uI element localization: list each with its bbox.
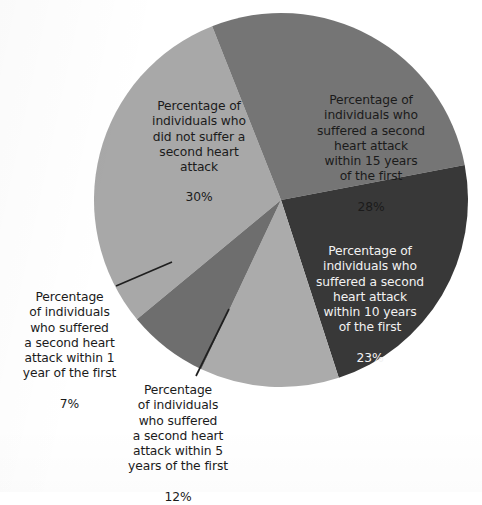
slice-label-within-15-years: Percentage of individuals who suffered a… [297,78,445,215]
slice-label-text-no-second-attack: Percentage of individuals who did not su… [152,99,246,174]
slice-label-text-within-15-years: Percentage of individuals who suffered a… [317,93,425,183]
slice-label-text-within-5-years: Percentage of individuals who suffered a… [128,383,228,473]
slice-value-no-second-attack: 30% [185,190,212,204]
slice-label-within-10-years: Percentage of individuals who suffered a… [295,229,445,366]
slice-value-within-15-years: 28% [357,200,384,214]
slice-label-text-within-1-year: Percentage of individuals who suffered a… [23,290,117,380]
slice-label-text-within-10-years: Percentage of individuals who suffered a… [316,244,424,334]
slice-value-within-1-year: 7% [60,397,79,411]
slice-value-within-5-years: 12% [164,490,191,504]
slice-label-no-second-attack: Percentage of individuals who did not su… [123,84,275,206]
slice-value-within-10-years: 23% [356,351,383,365]
slice-label-within-5-years: Percentage of individuals who suffered a… [104,368,252,505]
